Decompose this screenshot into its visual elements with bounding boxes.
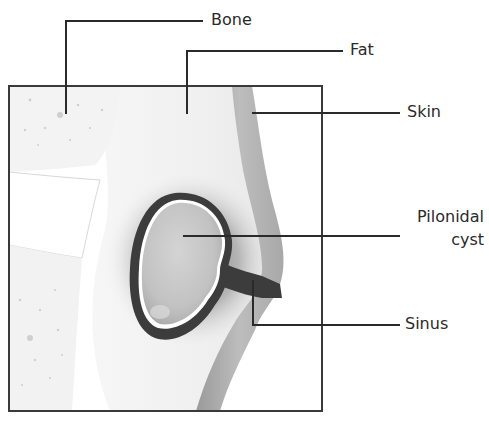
anatomy-illustration [9, 86, 322, 411]
label-pilonidal-line1: Pilonidal [402, 208, 484, 226]
label-skin: Skin [407, 103, 441, 121]
label-pilonidal-cyst: Pilonidal cyst [402, 208, 484, 249]
label-bone: Bone [211, 11, 252, 29]
label-sinus: Sinus [405, 315, 448, 333]
label-fat: Fat [350, 41, 374, 59]
label-pilonidal-line2: cyst [402, 231, 484, 249]
lower-bone-region [9, 245, 82, 411]
